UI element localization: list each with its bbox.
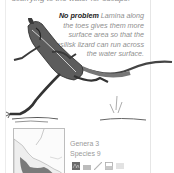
- habitat-icons: [72, 162, 124, 170]
- range-map: [13, 128, 65, 173]
- branch-icon: [94, 162, 102, 170]
- genera-value: 3: [95, 140, 99, 147]
- species-value: 9: [97, 150, 101, 157]
- wetland-icon: [116, 162, 124, 170]
- genera-label: Genera: [70, 140, 95, 147]
- taxonomy-stats: Genera 3 Species 9: [70, 139, 101, 159]
- book-page: scurrying to the water for escape. No pr…: [0, 0, 174, 173]
- species-label: Species: [70, 150, 97, 157]
- basilisk-lizard-illustration: [0, 18, 174, 123]
- water-icon: [83, 162, 91, 170]
- central-america-map: [14, 129, 64, 173]
- species-row: Species 9: [70, 149, 101, 159]
- cropped-body-text: scurrying to the water for escape.: [12, 0, 152, 3]
- genera-row: Genera 3: [70, 139, 101, 149]
- river-icon: [105, 162, 113, 170]
- forest-icon: [72, 162, 80, 170]
